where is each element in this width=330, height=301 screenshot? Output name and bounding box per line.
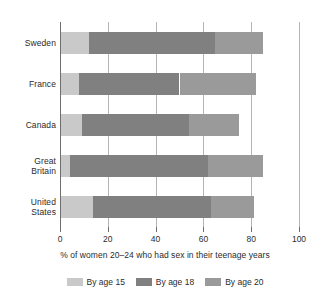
- tick-mark-100: [299, 227, 300, 232]
- tick-label-60: 60: [188, 234, 218, 244]
- bar-segment-france-by-age-18[interactable]: [79, 73, 179, 95]
- bar-segment-great-britain-by-age-18[interactable]: [70, 155, 209, 177]
- category-label-great-britain: Great Britain: [0, 156, 56, 176]
- category-label-line: Britain: [0, 166, 56, 176]
- legend-item-by-age-15[interactable]: By age 15: [67, 277, 125, 287]
- bar-segment-france-by-age-20[interactable]: [180, 73, 256, 95]
- category-label-canada: Canada: [0, 120, 56, 130]
- plot-area: [60, 22, 299, 227]
- legend-swatch-icon: [67, 278, 83, 286]
- tick-mark-60: [203, 227, 204, 232]
- category-label-line: Great: [0, 156, 56, 166]
- bar-segment-canada-by-age-18[interactable]: [82, 114, 190, 136]
- category-label-line: United: [0, 197, 56, 207]
- value-axis-line: [60, 22, 61, 227]
- legend-label: By age 20: [225, 277, 263, 287]
- x-axis-title: % of women 20–24 who had sex in their te…: [0, 250, 330, 261]
- category-label-united-states: United States: [0, 197, 56, 217]
- bar-segment-sweden-by-age-15[interactable]: [60, 32, 89, 54]
- tick-mark-40: [156, 227, 157, 232]
- tick-mark-20: [108, 227, 109, 232]
- legend-label: By age 15: [87, 277, 125, 287]
- category-label-line: Canada: [0, 120, 56, 130]
- bar-canada[interactable]: [60, 114, 299, 136]
- category-label-line: States: [0, 207, 56, 217]
- tick-label-80: 80: [236, 234, 266, 244]
- bar-segment-canada-by-age-20[interactable]: [189, 114, 239, 136]
- tick-label-100: 100: [284, 234, 314, 244]
- legend-label: By age 18: [156, 277, 194, 287]
- chart-legend: By age 15 By age 18 By age 20: [0, 277, 330, 287]
- category-label-france: France: [0, 79, 56, 89]
- category-axis-labels: Sweden France Canada Great Britain Unite…: [0, 22, 56, 227]
- category-label-line: France: [0, 79, 56, 89]
- legend-swatch-icon: [136, 278, 152, 286]
- bar-segment-great-britain-by-age-20[interactable]: [208, 155, 263, 177]
- bar-segment-sweden-by-age-20[interactable]: [215, 32, 263, 54]
- tick-label-0: 0: [45, 234, 75, 244]
- category-label-sweden: Sweden: [0, 38, 56, 48]
- legend-swatch-icon: [205, 278, 221, 286]
- category-label-line: Sweden: [0, 38, 56, 48]
- bar-united-states[interactable]: [60, 196, 299, 218]
- tick-label-40: 40: [141, 234, 171, 244]
- tick-mark-0: [60, 227, 61, 232]
- stacked-bar-chart: Sweden France Canada Great Britain Unite…: [0, 0, 330, 301]
- bar-sweden[interactable]: [60, 32, 299, 54]
- bar-segment-sweden-by-age-18[interactable]: [89, 32, 216, 54]
- bar-france[interactable]: [60, 73, 299, 95]
- bar-segment-france-by-age-15[interactable]: [60, 73, 79, 95]
- bar-segment-united-states-by-age-18[interactable]: [93, 196, 210, 218]
- legend-item-by-age-20[interactable]: By age 20: [205, 277, 263, 287]
- bar-segment-united-states-by-age-15[interactable]: [60, 196, 93, 218]
- tick-mark-80: [251, 227, 252, 232]
- bar-segment-united-states-by-age-20[interactable]: [211, 196, 254, 218]
- bar-segment-canada-by-age-15[interactable]: [60, 114, 82, 136]
- tick-label-20: 20: [93, 234, 123, 244]
- gridline-100: [299, 22, 300, 227]
- legend-item-by-age-18[interactable]: By age 18: [136, 277, 194, 287]
- bar-segment-great-britain-by-age-15[interactable]: [60, 155, 70, 177]
- bar-great-britain[interactable]: [60, 155, 299, 177]
